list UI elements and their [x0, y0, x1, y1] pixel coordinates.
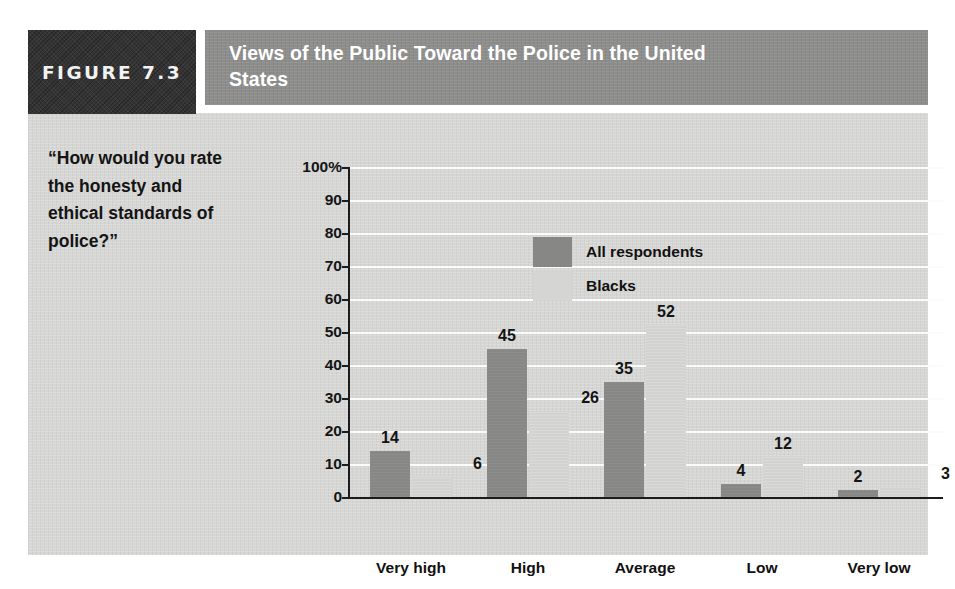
figure-tag-label: FIGURE 7.3 — [42, 62, 182, 83]
y-tick-label: 20 — [288, 422, 342, 440]
y-tick-mark — [342, 299, 350, 301]
bar-value-label: 14 — [381, 429, 399, 447]
x-category-label-low: Low — [747, 559, 778, 577]
legend-item-all-respondents: All respondents — [533, 235, 703, 269]
bar-very-high-all-respondents: 14 — [370, 451, 410, 497]
y-tick-label: 100% — [288, 158, 342, 176]
y-tick-label: 40 — [288, 356, 342, 374]
bar-average-all-respondents: 35 — [604, 382, 644, 498]
x-category-label-very-low: Very low — [848, 559, 911, 577]
y-tick-mark — [342, 464, 350, 466]
bar-value-label: 35 — [615, 360, 633, 378]
figure-body: “How would you rate the honesty and ethi… — [28, 113, 928, 555]
bar-average-blacks: 52 — [646, 325, 686, 497]
figure-tag-box: FIGURE 7.3 — [28, 30, 196, 114]
x-category-label-average: Average — [615, 559, 676, 577]
y-tick-mark — [342, 431, 350, 433]
y-tick-label: 60 — [288, 290, 342, 308]
bar-value-label: 2 — [854, 468, 863, 486]
bar-value-label: 45 — [498, 327, 516, 345]
y-tick-label: 90 — [288, 191, 342, 209]
figure-title: Views of the Public Toward the Police in… — [229, 40, 719, 92]
x-category-label-high: High — [511, 559, 545, 577]
legend-item-blacks: Blacks — [533, 269, 703, 303]
y-axis-labels: 100% 90 80 70 60 50 40 30 20 10 0 — [290, 167, 342, 497]
bar-high-all-respondents: 45 — [487, 349, 527, 498]
y-tick-mark — [342, 233, 350, 235]
y-tick-label: 30 — [288, 389, 342, 407]
legend-label: Blacks — [586, 277, 636, 295]
bar-value-label: 3 — [941, 465, 950, 483]
bar-value-label: 6 — [473, 455, 482, 473]
y-tick-mark — [342, 332, 350, 334]
y-tick-label: 70 — [288, 257, 342, 275]
y-tick-mark — [342, 167, 350, 169]
chart-legend: All respondents Blacks — [533, 235, 703, 303]
y-tick-label: 80 — [288, 224, 342, 242]
figure-title-bar: Views of the Public Toward the Police in… — [205, 30, 928, 105]
y-tick-mark — [342, 200, 350, 202]
bar-value-label: 12 — [774, 435, 792, 453]
bar-value-label: 26 — [581, 389, 599, 407]
plot-area: 14 6 45 26 35 52 4 12 — [350, 167, 943, 497]
bar-high-blacks: 26 — [529, 411, 569, 497]
x-category-label-very-high: Very high — [376, 559, 446, 577]
bar-low-blacks: 12 — [763, 457, 803, 497]
bar-value-label: 52 — [657, 303, 675, 321]
y-tick-mark — [342, 266, 350, 268]
question-caption: “How would you rate the honesty and ethi… — [48, 145, 223, 255]
gridline — [350, 200, 943, 202]
bar-low-all-respondents: 4 — [721, 484, 761, 497]
legend-swatch-icon — [533, 271, 572, 301]
y-tick-label: 10 — [288, 455, 342, 473]
legend-label: All respondents — [586, 243, 703, 261]
legend-swatch-icon — [533, 237, 572, 267]
y-tick-mark — [342, 497, 350, 499]
bar-very-low-blacks: 3 — [880, 487, 920, 497]
bar-very-high-blacks: 6 — [412, 477, 452, 497]
bar-very-low-all-respondents: 2 — [838, 490, 878, 497]
y-tick-mark — [342, 398, 350, 400]
y-tick-label: 0 — [288, 488, 342, 506]
bar-chart: 100% 90 80 70 60 50 40 30 20 10 0 — [290, 113, 928, 555]
y-tick-label: 50 — [288, 323, 342, 341]
x-axis-line — [348, 497, 943, 499]
y-tick-mark — [342, 365, 350, 367]
gridline — [350, 167, 943, 169]
bar-value-label: 4 — [737, 462, 746, 480]
